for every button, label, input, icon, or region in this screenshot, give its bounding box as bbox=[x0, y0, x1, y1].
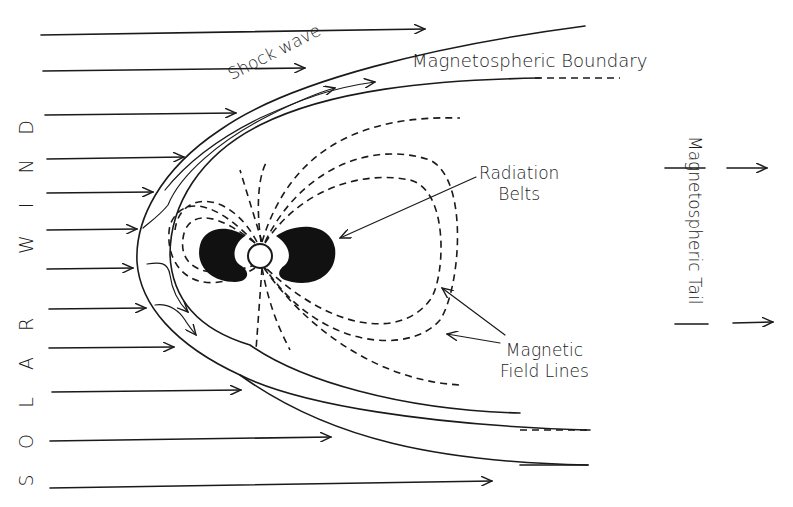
magnetic-field-lines-label: Magnetic Field Lines bbox=[500, 340, 589, 382]
solar-wind-letter: S bbox=[17, 469, 56, 493]
field-lines-pointer-1 bbox=[442, 288, 505, 335]
tail-arrows bbox=[665, 168, 773, 324]
earth bbox=[248, 244, 272, 268]
radiation-belts-label: Radiation Belts bbox=[479, 163, 559, 205]
solar-wind-letter: O bbox=[17, 430, 56, 454]
radiation-belts-label-line1: Radiation bbox=[479, 163, 559, 184]
solar-wind-letter: W bbox=[17, 233, 56, 257]
solar-wind-label: D N I W R A L O S bbox=[24, 108, 48, 500]
magnetosphere-diagram bbox=[0, 0, 793, 507]
solar-wind-letter: A bbox=[17, 352, 56, 376]
magnetosheath-flow bbox=[143, 82, 375, 335]
solar-wind-letter: L bbox=[17, 391, 56, 415]
magnetic-field-lines-label-line2: Field Lines bbox=[500, 361, 589, 382]
solar-wind-letter: I bbox=[17, 194, 56, 218]
solar-wind-letter bbox=[16, 273, 57, 297]
field-lines-pointer-2 bbox=[447, 334, 500, 343]
magnetospheric-boundary-label: Magnetospheric Boundary bbox=[412, 52, 647, 70]
solar-wind-letter: N bbox=[17, 155, 56, 179]
radiation-belts-label-line2: Belts bbox=[479, 184, 559, 205]
magnetospheric-tail-label: Magnetospheric Tail bbox=[686, 136, 703, 304]
shock-lower-tail bbox=[240, 375, 588, 465]
solar-wind-letter: D bbox=[17, 116, 56, 140]
magnetic-field-lines-label-line1: Magnetic bbox=[500, 340, 589, 361]
solar-wind-letter: R bbox=[17, 313, 56, 337]
